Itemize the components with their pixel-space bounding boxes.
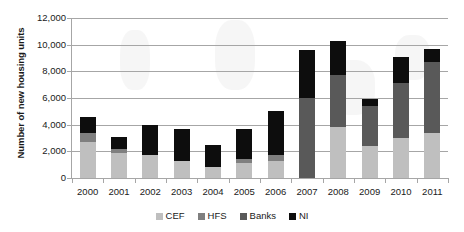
bar-segment-cef <box>268 161 284 178</box>
gridline <box>72 45 448 46</box>
x-tick-label: 2005 <box>227 186 261 198</box>
stacked-bar-chart: Number of new housing units 02,0004,0006… <box>0 0 464 232</box>
bar-segment-ni <box>424 49 440 62</box>
bar-group <box>236 18 252 178</box>
bar-segment-ni <box>111 137 127 148</box>
x-axis-tick-labels: 2000200120022003200420052006200720082009… <box>72 186 448 200</box>
gridline <box>72 71 448 72</box>
bar-segment-cef <box>330 127 346 178</box>
legend-label: CEF <box>166 211 185 221</box>
x-tick-label: 2010 <box>384 186 418 198</box>
gridline <box>72 18 448 19</box>
x-tick-label: 2000 <box>71 186 105 198</box>
bar-segment-ni <box>330 41 346 76</box>
x-tick-mark <box>385 178 386 183</box>
x-tick-mark <box>291 178 292 183</box>
plot-area <box>72 18 448 178</box>
x-tick-mark <box>417 178 418 183</box>
bar-group <box>362 18 378 178</box>
legend-swatch-icon <box>289 213 296 220</box>
bar-segment-cef <box>142 155 158 178</box>
bar-group <box>174 18 190 178</box>
x-tick-label: 2011 <box>415 186 449 198</box>
legend-swatch-icon <box>240 213 247 220</box>
bar-segment-hfs <box>80 133 96 142</box>
bar-segment-cef <box>80 142 96 178</box>
x-tick-label: 2009 <box>353 186 387 198</box>
y-tick-label: 0 <box>8 173 66 183</box>
x-tick-mark <box>72 178 73 183</box>
bar-segment-banks <box>393 83 409 138</box>
bar-group <box>205 18 221 178</box>
x-tick-label: 2001 <box>102 186 136 198</box>
x-tick-mark <box>323 178 324 183</box>
x-tick-mark <box>229 178 230 183</box>
y-tick-label: 2,000 <box>8 146 66 156</box>
bar-group <box>424 18 440 178</box>
gridline <box>72 125 448 126</box>
x-tick-mark <box>103 178 104 183</box>
legend-label: NI <box>299 211 309 221</box>
bar-segment-cef <box>236 163 252 178</box>
bar-segment-ni <box>268 111 284 155</box>
y-tick-label: 6,000 <box>8 93 66 103</box>
bar-segment-cef <box>424 133 440 178</box>
legend-item-ni[interactable]: NI <box>289 211 309 221</box>
bar-segment-cef <box>111 153 127 178</box>
bar-group <box>393 18 409 178</box>
x-tick-mark <box>166 178 167 183</box>
x-tick-label: 2007 <box>290 186 324 198</box>
x-tick-label: 2004 <box>196 186 230 198</box>
bar-segment-ni <box>236 129 252 158</box>
bar-group <box>80 18 96 178</box>
bar-segment-cef <box>174 161 190 178</box>
gridline <box>72 98 448 99</box>
bar-group <box>111 18 127 178</box>
x-tick-mark <box>197 178 198 183</box>
bar-segment-banks <box>299 98 315 178</box>
x-axis-ticks <box>72 178 448 183</box>
legend-label: Banks <box>250 211 276 221</box>
x-tick-mark <box>260 178 261 183</box>
bar-group <box>142 18 158 178</box>
bar-segment-banks <box>362 106 378 146</box>
bar-group <box>299 18 315 178</box>
bar-segment-banks <box>424 62 440 133</box>
legend-item-hfs[interactable]: HFS <box>198 211 227 221</box>
y-tick-label: 10,000 <box>8 40 66 50</box>
legend-swatch-icon <box>156 213 163 220</box>
bar-segment-ni <box>80 117 96 132</box>
bar-segment-ni <box>362 99 378 106</box>
legend-swatch-icon <box>198 213 205 220</box>
x-tick-mark <box>354 178 355 183</box>
bar-segment-cef <box>205 167 221 178</box>
legend-item-cef[interactable]: CEF <box>156 211 185 221</box>
y-tick-label: 12,000 <box>8 13 66 23</box>
bar-group <box>330 18 346 178</box>
legend-item-banks[interactable]: Banks <box>240 211 276 221</box>
bar-segment-banks <box>330 75 346 127</box>
legend-label: HFS <box>208 211 227 221</box>
bar-segment-ni <box>142 125 158 155</box>
x-tick-label: 2003 <box>165 186 199 198</box>
bar-segment-cef <box>393 138 409 178</box>
bar-segment-hfs <box>268 155 284 161</box>
gridline <box>72 151 448 152</box>
y-tick-label: 8,000 <box>8 66 66 76</box>
bar-segment-ni <box>174 129 190 162</box>
bar-segment-hfs <box>236 159 252 163</box>
x-tick-label: 2006 <box>259 186 293 198</box>
y-tick-label: 4,000 <box>8 120 66 130</box>
bar-segment-ni <box>299 50 315 98</box>
bar-segment-ni <box>393 57 409 84</box>
bar-segment-ni <box>205 145 221 168</box>
x-tick-label: 2002 <box>133 186 167 198</box>
chart-legend: CEFHFSBanksNI <box>0 208 464 224</box>
bar-group <box>268 18 284 178</box>
bar-segment-cef <box>362 146 378 178</box>
bar-segment-hfs <box>111 149 127 153</box>
x-tick-label: 2008 <box>321 186 355 198</box>
x-tick-mark <box>448 178 449 183</box>
x-tick-mark <box>135 178 136 183</box>
